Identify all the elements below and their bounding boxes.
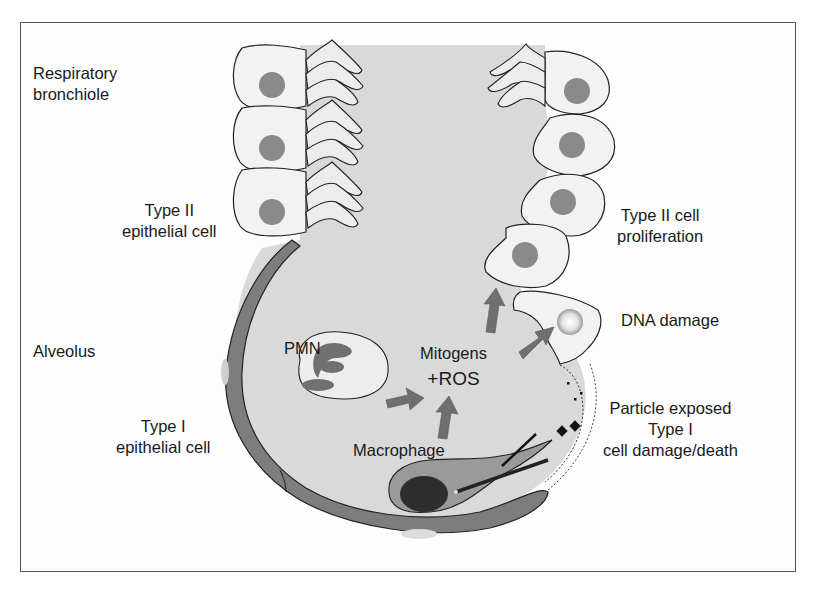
nucleus [564,78,590,104]
label-macrophage: Macrophage [353,440,445,461]
label-mitogens-ros: Mitogens +ROS [420,343,487,389]
label-dna-damage: DNA damage [621,310,719,331]
nucleus [550,189,576,215]
label-type2-cell-proliferation: Type II cell proliferation [617,205,703,247]
type1-nucleus-left [221,359,229,385]
label-respiratory-bronchiole: Respiratory bronchiole [33,63,117,105]
type1-nucleus-bottom [401,529,437,539]
damaged-nucleus [557,309,583,335]
alveolus-diagram [0,0,814,589]
left-type2-cells [233,45,306,236]
nucleus [512,242,538,268]
label-type1-epithelial-cell: Type I epithelial cell [116,416,210,458]
nucleus [559,132,585,158]
label-alveolus: Alveolus [33,341,95,362]
label-type2-epithelial-cell: Type II epithelial cell [122,200,216,242]
label-particle-exposed: Particle exposed Type I cell damage/deat… [603,398,738,461]
label-pmn: PMN [284,338,321,359]
